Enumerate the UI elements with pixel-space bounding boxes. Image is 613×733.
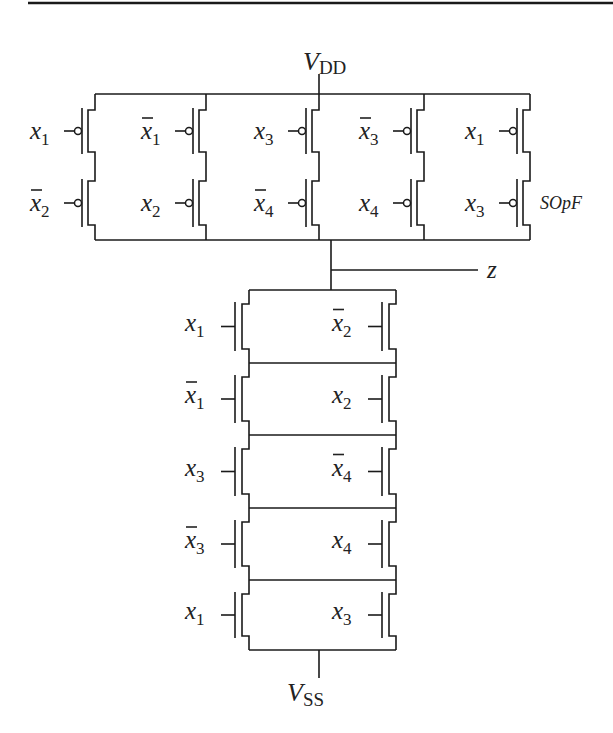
pmos-transistor-top-label: x3 [358,117,379,149]
pmos-transistor-top: x1 [464,104,530,158]
pmos-transistor-top: x3 [358,104,424,158]
pullup-branch: x1x3 [464,94,530,240]
pulldown-network: x1x2x1x2x3x4x3x4x1x3 [184,290,396,650]
pmos-transistor-top: x1 [140,104,206,158]
nmos-transistor-right-label: x3 [331,597,352,629]
pmos-transistor-top-label: x1 [140,117,161,149]
pmos-transistor-top-label: x3 [253,117,274,149]
pulldown-stage: x1x2 [184,363,396,435]
pmos-transistor-bottom-label: x3 [464,189,485,221]
pmos-transistor-top-label: x1 [464,117,485,149]
nmos-transistor-left: x3 [184,514,249,574]
cmos-circuit-diagram: VDD x1x2x1x2x3x4x3x4x1x3 SOpF z x1x2x1x2… [0,0,613,733]
pullup-branch: x3x4 [358,94,424,240]
inversion-bubble-icon [510,200,517,207]
pullup-branch: x1x2 [140,94,206,240]
nmos-transistor-right-label: x2 [331,381,352,413]
nmos-transistor-left-label: x1 [184,381,205,413]
nmos-transistor-right: x2 [331,296,396,357]
output-node: z [331,240,497,290]
vss-label: VSS [287,678,324,710]
pmos-transistor-bottom-label: x2 [29,189,50,221]
pmos-transistor-bottom-label: x4 [358,189,379,221]
pmos-transistor-top: x1 [29,104,95,158]
vss-supply: VSS [287,650,324,710]
nmos-transistor-left: x1 [184,586,249,644]
pmos-transistor-top: x3 [253,104,319,158]
inversion-bubble-icon [299,200,306,207]
output-z-label: z [486,256,497,283]
pmos-transistor-bottom: x2 [140,175,206,231]
inversion-bubble-icon [75,200,82,207]
nmos-transistor-left-label: x1 [184,597,205,629]
pulldown-stage: x3x4 [184,508,396,580]
vdd-supply: VDD [303,47,346,94]
pmos-transistor-top-label: x1 [29,117,50,149]
nmos-transistor-left: x1 [184,369,249,429]
nmos-transistor-right: x4 [331,441,396,502]
nmos-transistor-left-label: x1 [184,309,205,341]
pulldown-stage: x1x2 [184,290,396,363]
inversion-bubble-icon [75,128,82,135]
pmos-transistor-bottom-label: x4 [253,189,274,221]
nmos-transistor-right-label: x2 [331,309,352,341]
pullup-branch: x1x2 [29,94,95,240]
pulldown-stage: x1x3 [184,580,396,650]
nmos-transistor-left-label: x3 [184,454,205,486]
pulldown-stage: x3x4 [184,435,396,508]
sopf-label: SOpF [540,193,583,213]
pmos-transistor-bottom: x4 [358,175,424,231]
inversion-bubble-icon [510,128,517,135]
nmos-transistor-right-label: x4 [331,454,352,486]
nmos-transistor-left: x1 [184,296,249,357]
nmos-transistor-right: x2 [331,369,396,429]
inversion-bubble-icon [186,200,193,207]
pmos-transistor-bottom: x2 [29,175,95,231]
inversion-bubble-icon [186,128,193,135]
pmos-transistor-bottom: x4 [253,175,319,231]
nmos-transistor-right: x4 [331,514,396,574]
pullup-branch: x3x4 [253,94,319,240]
inversion-bubble-icon [299,128,306,135]
nmos-transistor-right-label: x4 [331,526,352,558]
vdd-label: VDD [303,47,346,78]
inversion-bubble-icon [404,200,411,207]
nmos-transistor-left: x3 [184,441,249,502]
nmos-transistor-left-label: x3 [184,526,205,558]
pmos-transistor-bottom: x3 [464,175,530,231]
pmos-transistor-bottom-label: x2 [140,189,161,221]
inversion-bubble-icon [404,128,411,135]
pullup-network: x1x2x1x2x3x4x3x4x1x3 [29,94,530,240]
nmos-transistor-right: x3 [331,586,396,644]
